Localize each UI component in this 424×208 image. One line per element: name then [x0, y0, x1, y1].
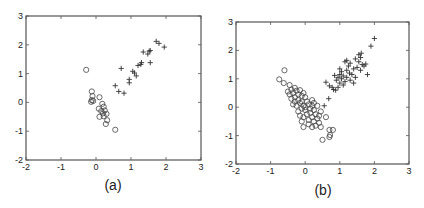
y-tick-label: 2	[228, 45, 233, 55]
caption-a: (a)	[104, 177, 121, 193]
y-tick-label: -1	[15, 126, 23, 136]
x-tick-label: 2	[163, 162, 168, 172]
y-tick-label: -1	[225, 131, 233, 141]
x-tick-label: -2	[22, 162, 30, 172]
x-tick-label: 3	[406, 166, 411, 176]
y-tick-label: 1	[228, 74, 233, 84]
y-tick-label: -2	[225, 159, 233, 169]
x-tick-label: -2	[232, 166, 240, 176]
scatter-plot-b: -2-101233210-1-2	[225, 17, 412, 176]
x-tick-label: 1	[337, 166, 342, 176]
scatter-plot-a: -2-101233210-1-2	[15, 11, 204, 172]
y-tick-label: -2	[15, 155, 23, 165]
y-tick-label: 3	[228, 17, 233, 27]
x-tick-label: -1	[57, 162, 65, 172]
x-tick-label: 0	[303, 166, 308, 176]
plot-frame	[26, 16, 201, 160]
x-tick-label: 0	[93, 162, 98, 172]
y-tick-label: 2	[18, 40, 23, 50]
y-tick-label: 3	[18, 11, 23, 21]
x-tick-label: -1	[267, 166, 275, 176]
caption-b: (b)	[314, 182, 331, 198]
x-tick-label: 2	[372, 166, 377, 176]
y-tick-label: 0	[18, 97, 23, 107]
x-tick-label: 3	[198, 162, 203, 172]
scatter-figure: -2-101233210-1-2 -2-101233210-1-2 (a) (b…	[0, 0, 424, 208]
y-tick-label: 1	[18, 69, 23, 79]
x-tick-label: 1	[128, 162, 133, 172]
y-tick-label: 0	[228, 102, 233, 112]
